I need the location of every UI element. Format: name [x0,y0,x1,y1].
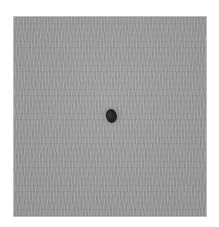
textured-surface-image [13,16,207,217]
